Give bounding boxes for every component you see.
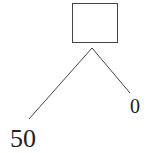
left-branch-line	[29, 48, 92, 119]
game-tree-diagram: 50 0	[0, 0, 155, 153]
left-payoff-label: 50	[10, 126, 36, 152]
decision-node-box	[73, 4, 118, 43]
right-branch-line	[92, 48, 130, 93]
right-payoff-label: 0	[130, 96, 140, 116]
